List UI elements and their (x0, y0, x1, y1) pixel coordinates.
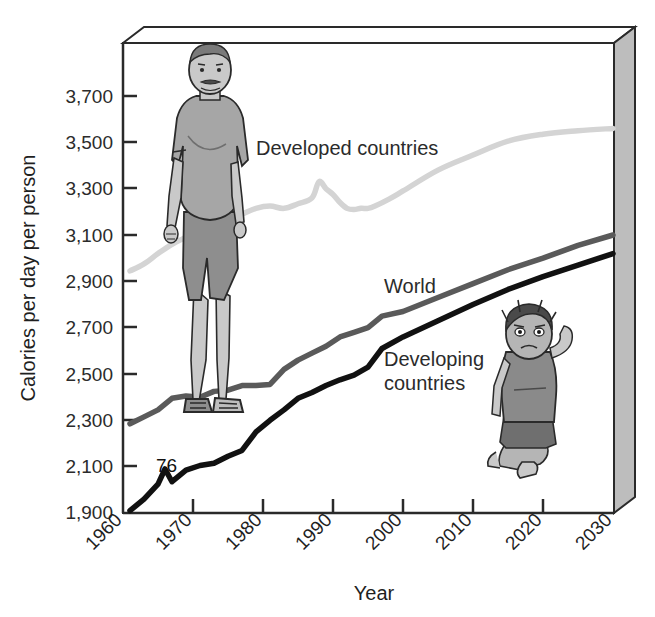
y-tick-label-2900: 2,900 (65, 271, 113, 292)
y-tick-label-2100: 2,100 (65, 456, 113, 477)
series-label-developed-countries: Developed countries (256, 137, 438, 159)
series-label-developing-line1: Developing (384, 348, 484, 370)
y-tick-label-2300: 2,300 (65, 410, 113, 431)
x-tick-label-1980: 1980 (221, 509, 266, 554)
y-axis-title: Calories per day per person (17, 155, 39, 402)
x-tick-label-2010: 2010 (431, 509, 476, 554)
x-axis: 1960 1970 1980 1990 2000 2010 2020 2030 … (81, 499, 616, 604)
y-tick-label-3700: 3,700 (65, 86, 113, 107)
annotation-76: 76 (156, 455, 177, 476)
x-tick-label-1970: 1970 (151, 509, 196, 554)
plot-box-top-face (123, 27, 635, 43)
calorie-consumption-chart: 3,700 3,500 3,300 3,100 2,900 2,700 2,50… (0, 0, 655, 617)
x-tick-label-2000: 2000 (361, 509, 406, 554)
y-tick-label-2500: 2,500 (65, 364, 113, 385)
y-tick-label-3100: 3,100 (65, 225, 113, 246)
series-label-world: World (384, 275, 436, 297)
x-axis-title: Year (354, 582, 395, 604)
x-tick-label-2020: 2020 (501, 509, 546, 554)
y-tick-label-3300: 3,300 (65, 178, 113, 199)
y-tick-label-2700: 2,700 (65, 317, 113, 338)
y-axis: 3,700 3,500 3,300 3,100 2,900 2,700 2,50… (17, 43, 137, 523)
y-tick-label-3500: 3,500 (65, 132, 113, 153)
plot-box-right-face (614, 27, 635, 513)
x-tick-label-1990: 1990 (291, 509, 336, 554)
series-label-developing-line2: countries (384, 372, 465, 394)
x-tick-label-2030: 2030 (571, 509, 616, 554)
